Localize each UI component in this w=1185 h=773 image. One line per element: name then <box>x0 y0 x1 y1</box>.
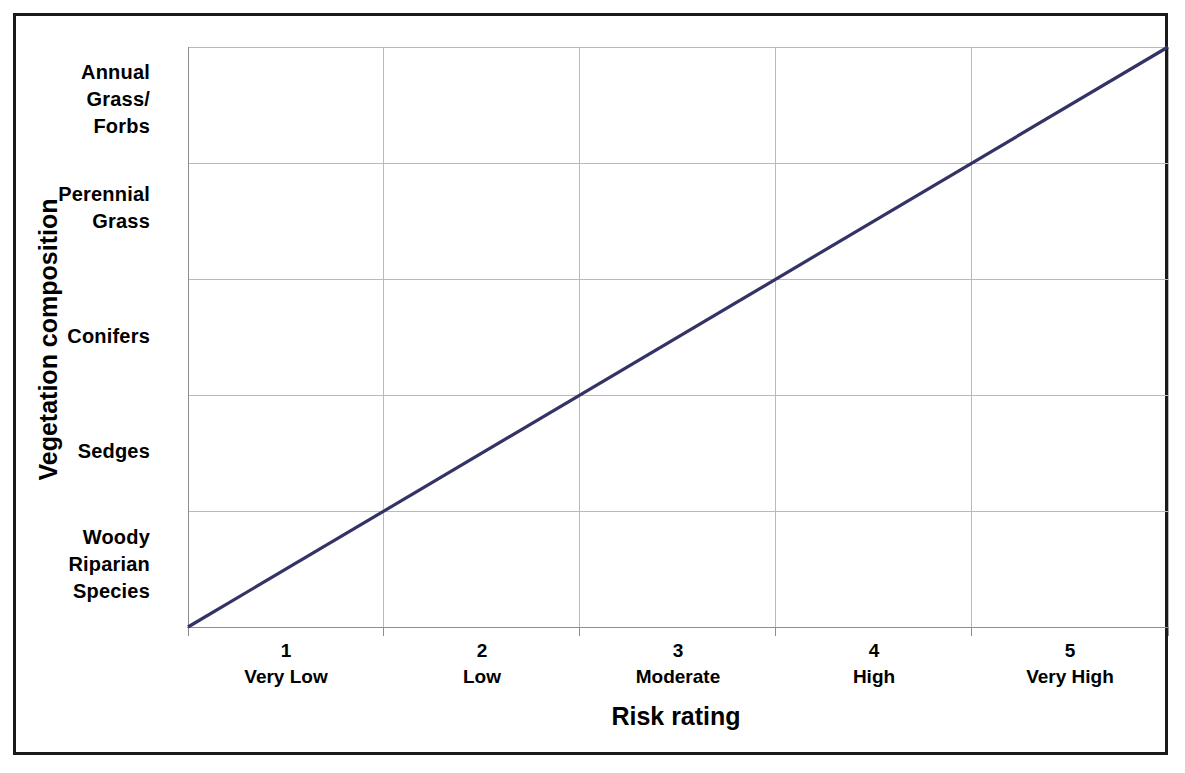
x-axis-title: Risk rating <box>576 702 776 731</box>
x-tick-category: Very Low <box>186 664 386 690</box>
y-tick-label-sedges: Sedges <box>78 438 150 465</box>
data-series-line <box>188 47 1168 627</box>
x-tick-number: 2 <box>382 638 582 664</box>
y-axis-title: Vegetation composition <box>34 180 63 500</box>
y-tick-label-woody-riparian-species: Woody Riparian Species <box>68 524 150 605</box>
x-tick-number: 5 <box>970 638 1170 664</box>
x-tick-label-4: 4 High <box>774 638 974 690</box>
x-axis-tick <box>579 627 580 636</box>
x-tick-number: 3 <box>578 638 778 664</box>
x-tick-category: Moderate <box>578 664 778 690</box>
x-tick-label-3: 3 Moderate <box>578 638 778 690</box>
x-tick-label-5: 5 Very High <box>970 638 1170 690</box>
x-tick-number: 1 <box>186 638 386 664</box>
x-tick-label-1: 1 Very Low <box>186 638 386 690</box>
x-tick-category: Low <box>382 664 582 690</box>
y-tick-label-annual-grass-forbs: Annual Grass/ Forbs <box>81 59 150 140</box>
x-tick-label-2: 2 Low <box>382 638 582 690</box>
x-axis-tick <box>971 627 972 636</box>
x-tick-number: 4 <box>774 638 974 664</box>
y-tick-label-conifers: Conifers <box>67 323 150 350</box>
figure-border: Annual Grass/ Forbs Perennial Grass Coni… <box>13 13 1168 755</box>
x-axis-tick <box>383 627 384 636</box>
x-tick-category: High <box>774 664 974 690</box>
x-axis-line <box>187 627 1169 628</box>
y-tick-label-perennial-grass: Perennial Grass <box>58 181 150 235</box>
x-axis-tick <box>1168 627 1169 636</box>
chart-figure: Annual Grass/ Forbs Perennial Grass Coni… <box>0 0 1185 773</box>
x-axis-tick <box>775 627 776 636</box>
x-tick-category: Very High <box>970 664 1170 690</box>
gridline-vertical <box>1168 47 1169 627</box>
